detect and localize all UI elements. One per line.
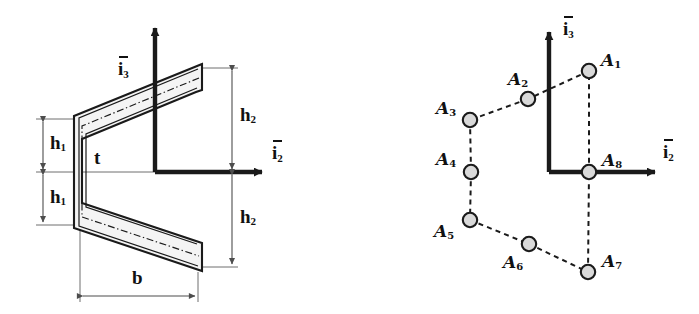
node-label-A2: A2: [508, 71, 528, 89]
node-label-A6-core: A: [503, 252, 516, 272]
dimension-label-b: b: [132, 268, 143, 288]
h1-lower-core: h: [50, 186, 61, 207]
figure-canvas: [0, 0, 699, 314]
node-label-A8: A8: [602, 152, 622, 170]
node-label-A2-sub: 2: [521, 78, 528, 89]
dimension-label-h2-upper: h2: [240, 105, 256, 125]
h2-lower-core: h: [240, 206, 251, 227]
node-label-A1-sub: 1: [614, 59, 621, 70]
node-label-A5: A5: [434, 223, 454, 241]
h2-upper-sub: 2: [251, 113, 257, 125]
dimension-label-h1-lower: h1: [50, 187, 66, 207]
node-label-A2-core: A: [508, 69, 521, 89]
h1-upper-core: h: [50, 132, 61, 153]
node-label-A3: A3: [436, 100, 456, 118]
figure-root: i3 i2 h1 h1 h2 h2 b t i3 i2 A1A2A3A4A5A6…: [0, 0, 699, 314]
node-link-A2-A3: [470, 99, 528, 120]
node-link-A1-A2: [528, 71, 589, 99]
node-A1[interactable]: [582, 64, 596, 78]
left-panel-group: [36, 28, 262, 302]
axis-i3-left-sub: 3: [123, 68, 129, 80]
node-label-A4-sub: 4: [449, 158, 456, 169]
node-label-A7: A7: [602, 253, 622, 271]
node-label-A7-sub: 7: [615, 260, 622, 271]
node-link-A5-A6: [470, 220, 529, 244]
dimension-label-h1-upper: h1: [50, 133, 66, 153]
node-label-A4-core: A: [436, 149, 449, 169]
node-A8[interactable]: [582, 165, 596, 179]
axis-label-i2-left: i2: [272, 140, 283, 164]
node-label-A3-sub: 3: [449, 107, 456, 118]
node-A4[interactable]: [464, 165, 478, 179]
thickness-label-t: t: [94, 148, 100, 167]
axis-i2-right-sub: 2: [668, 151, 674, 163]
node-label-A8-sub: 8: [615, 159, 622, 170]
dimension-label-h2-lower: h2: [240, 207, 256, 227]
node-label-A3-core: A: [436, 98, 449, 118]
axis-label-i2-right: i2: [663, 139, 674, 163]
node-label-A6-sub: 6: [516, 261, 523, 272]
node-label-A5-sub: 5: [447, 230, 454, 241]
axis-label-i3-left: i3: [118, 56, 129, 80]
node-A2[interactable]: [521, 92, 535, 106]
node-link-A6-A7: [529, 244, 588, 272]
node-label-A5-core: A: [434, 221, 447, 241]
h2-lower-sub: 2: [251, 215, 257, 227]
axis-i2-left-sub: 2: [277, 152, 283, 164]
node-label-A1-core: A: [601, 50, 614, 70]
node-A5[interactable]: [463, 213, 477, 227]
t-core: t: [94, 147, 100, 168]
h1-lower-sub: 1: [61, 195, 67, 207]
b-core: b: [132, 267, 143, 288]
h1-upper-sub: 1: [61, 141, 67, 153]
axis-label-i3-right: i3: [563, 16, 574, 40]
node-A6[interactable]: [522, 237, 536, 251]
node-label-A7-core: A: [602, 251, 615, 271]
axis-i3-right-sub: 3: [568, 28, 574, 40]
h2-upper-core: h: [240, 104, 251, 125]
node-label-A4: A4: [436, 151, 456, 169]
right-panel-group: [463, 32, 655, 279]
node-link-A7-A8: [588, 172, 589, 272]
node-A3[interactable]: [463, 113, 477, 127]
node-label-A8-core: A: [602, 150, 615, 170]
node-A7[interactable]: [581, 265, 595, 279]
node-label-A1: A1: [601, 52, 621, 70]
node-label-A6: A6: [503, 254, 523, 272]
